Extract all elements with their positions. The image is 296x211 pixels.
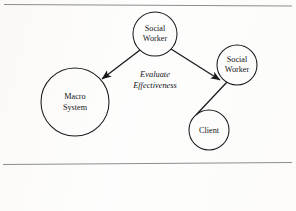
divider-bottom [3,163,292,165]
edge-to-macro-system [102,50,140,79]
annotation-row: Broker Micro [0,176,296,211]
node-social-worker-top-label-line2: Worker [143,34,168,43]
node-client-label: Client [199,126,220,135]
scanned-diagram-page: Social Worker Macro System Social Worker… [0,0,296,211]
edge-label-line2: Effectiveness [132,81,177,90]
node-social-worker-top-label-line1: Social [145,24,166,33]
node-macro-system-label-line2: System [63,103,88,112]
node-macro-system-label-line1: Macro [64,92,85,101]
edge-label-line1: Evaluate [139,70,170,79]
node-social-worker-right-label-line2: Worker [225,65,250,74]
edge-to-social-worker-right [171,49,220,80]
node-macro-system [41,68,109,136]
divider-top [4,5,292,7]
node-social-worker-right-label-line1: Social [227,55,248,64]
